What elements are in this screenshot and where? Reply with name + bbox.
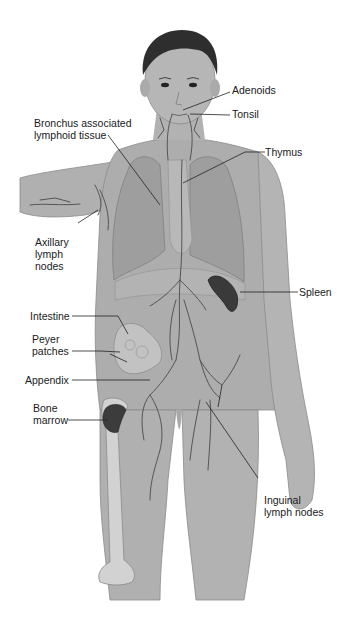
label-axillary-line2: lymph (35, 248, 69, 260)
label-peyer-line2: patches (32, 345, 69, 357)
label-tonsil: Tonsil (232, 108, 259, 120)
eye-left (161, 83, 169, 87)
label-inguinal-line2: lymph nodes (264, 506, 324, 518)
label-bone-marrow: Bone marrow (33, 402, 68, 426)
label-adenoids: Adenoids (232, 84, 276, 96)
label-peyer-line1: Peyer (32, 333, 69, 345)
label-balt: Bronchus associated lymphoid tissue (34, 117, 131, 141)
label-intestine: Intestine (30, 310, 70, 322)
label-inguinal-line1: Inguinal (264, 494, 324, 506)
eye-right (189, 83, 197, 87)
label-appendix: Appendix (25, 374, 69, 386)
label-axillary-line1: Axillary (35, 236, 69, 248)
label-axillary-line3: nodes (35, 260, 69, 272)
label-balt-line1: Bronchus associated (34, 117, 131, 129)
lymphatic-system-diagram: Adenoids Tonsil Bronchus associated lymp… (0, 0, 349, 632)
label-bone-line1: Bone (33, 402, 68, 414)
label-bone-line2: marrow (33, 414, 68, 426)
label-inguinal-lymph-nodes: Inguinal lymph nodes (264, 494, 324, 518)
label-peyer-patches: Peyer patches (32, 333, 69, 357)
label-balt-line2: lymphoid tissue (34, 129, 131, 141)
label-spleen: Spleen (299, 286, 332, 298)
label-thymus: Thymus (265, 146, 302, 158)
hanging-arm (258, 152, 314, 509)
label-axillary-lymph-nodes: Axillary lymph nodes (35, 236, 69, 272)
leg-left (182, 410, 258, 600)
